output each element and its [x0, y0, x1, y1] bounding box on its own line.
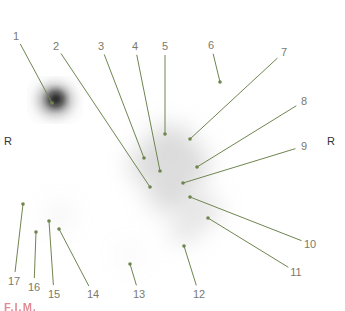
marker-dot-15: [47, 219, 51, 223]
leader-line-7: [190, 58, 277, 139]
leader-lines: [15, 44, 302, 286]
marker-dot-12: [182, 244, 186, 248]
leader-line-16: [34, 232, 36, 278]
label-17: 17: [8, 276, 20, 287]
label-1: 1: [13, 31, 19, 42]
leader-line-6: [213, 54, 220, 82]
leader-line-1: [20, 44, 52, 103]
leader-line-3: [104, 54, 144, 158]
marker-dot-5: [163, 132, 167, 136]
marker-dot-4: [158, 169, 162, 173]
marker-dot-16: [34, 230, 38, 234]
label-16: 16: [28, 282, 40, 293]
marker-dot-11: [206, 216, 210, 220]
label-9: 9: [301, 141, 307, 152]
marker-dot-13: [128, 262, 132, 266]
leader-line-17: [15, 204, 23, 272]
label-15: 15: [48, 289, 60, 300]
orientation-left: R: [4, 136, 12, 147]
leader-line-13: [130, 264, 136, 285]
hot-spot: [41, 88, 69, 112]
label-7: 7: [281, 47, 287, 58]
label-13: 13: [133, 289, 145, 300]
label-11: 11: [290, 267, 301, 278]
label-2: 2: [53, 41, 59, 52]
marker-dot-17: [21, 202, 25, 206]
orientation-right: R: [327, 136, 335, 147]
label-3: 3: [98, 41, 104, 52]
figure-caption-fragment: F.I.M.: [4, 301, 37, 311]
leader-line-15: [49, 221, 53, 285]
leader-line-11: [208, 218, 288, 267]
marker-dot-9: [181, 181, 185, 185]
label-4: 4: [132, 41, 138, 52]
label-10: 10: [304, 239, 316, 250]
scan-diagram: R R 1234567891011121314151617 F.I.M.: [0, 0, 345, 311]
leader-line-8: [197, 106, 296, 167]
marker-dot-8: [195, 165, 199, 169]
label-5: 5: [162, 41, 168, 52]
marker-dot-6: [218, 80, 222, 84]
marker-dot-1: [50, 101, 54, 105]
diffuse-uptake: [46, 126, 219, 263]
label-12: 12: [193, 289, 205, 300]
marker-dot-10: [188, 195, 192, 199]
scan-image: [0, 0, 345, 311]
label-14: 14: [87, 289, 99, 300]
marker-dot-2: [148, 185, 152, 189]
marker-dot-14: [57, 227, 61, 231]
leader-line-2: [61, 53, 150, 187]
label-6: 6: [208, 40, 214, 51]
marker-dot-3: [142, 156, 146, 160]
leader-line-12: [184, 246, 196, 285]
label-8: 8: [301, 96, 307, 107]
marker-dot-7: [188, 137, 192, 141]
leader-line-14: [59, 229, 89, 286]
